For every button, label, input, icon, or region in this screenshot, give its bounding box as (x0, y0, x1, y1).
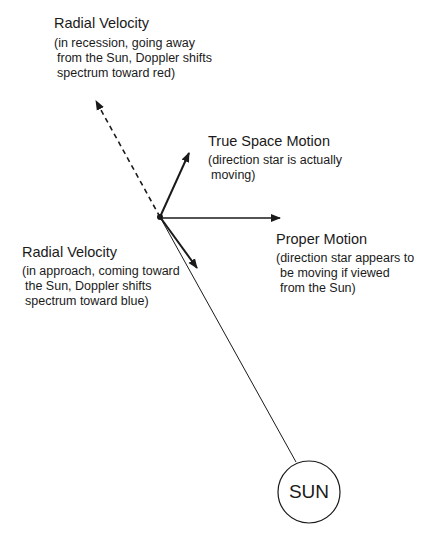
star-dot (157, 214, 163, 220)
proper-motion-title: Proper Motion (276, 231, 414, 248)
radial-approach-desc: (in approach, coming toward the Sun, Dop… (22, 264, 180, 309)
sun-label: SUN (278, 481, 340, 503)
radial-recession-label: Radial Velocity (in recession, going awa… (54, 15, 212, 81)
true-space-motion-title: True Space Motion (208, 133, 342, 150)
radial-recession-title: Radial Velocity (54, 15, 212, 32)
proper-motion-desc: (direction star appears to be moving if … (276, 251, 414, 296)
radial-recession-desc: (in recession, going away from the Sun, … (54, 36, 212, 81)
radial-recession-arrow (96, 101, 160, 217)
true-space-motion-desc: (direction star is actually moving) (208, 153, 342, 183)
radial-approach-title: Radial Velocity (22, 244, 180, 261)
radial-approach-label: Radial Velocity (in approach, coming tow… (22, 244, 180, 309)
true-space-motion-arrow (160, 153, 189, 217)
true-space-motion-label: True Space Motion (direction star is act… (208, 133, 342, 183)
proper-motion-label: Proper Motion (direction star appears to… (276, 231, 414, 296)
